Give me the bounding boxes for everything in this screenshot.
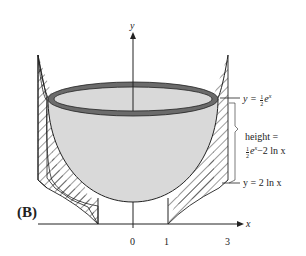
x-axis-label: x: [246, 219, 250, 229]
panel-label: (B): [17, 204, 37, 221]
bottom-curve-label: y = 2 ln x: [243, 178, 281, 188]
x-tick-0: 0: [130, 237, 135, 247]
height-label-line2: 12ex−2 ln x: [245, 145, 286, 159]
x-tick-1: 1: [164, 237, 169, 247]
height-label-line1: height =: [245, 132, 278, 142]
y-axis-label: y: [130, 21, 134, 31]
solid-of-revolution-diagram: [0, 0, 306, 256]
top-curve-label: y = 12ex: [243, 93, 271, 107]
x-tick-3: 3: [225, 237, 230, 247]
